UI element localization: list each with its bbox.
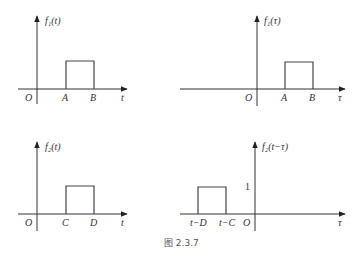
panel-f1-t: f₁(t) O A B t	[18, 15, 127, 104]
y-axis-label: f₁(τ)	[264, 15, 281, 27]
origin-label: O	[25, 217, 32, 228]
y-axis-label: f₂(t−τ)	[262, 141, 289, 153]
x-axis-label: τ	[338, 217, 342, 228]
pulse-start-label: A	[280, 92, 288, 103]
pulse	[66, 186, 94, 214]
pulse-end-label: t−C	[219, 217, 236, 228]
y-axis-label: f₂(t)	[45, 141, 61, 153]
pulse-start-label: C	[62, 217, 69, 228]
y-axis-label: f₁(t)	[45, 15, 61, 27]
pulse-start-label: A	[61, 92, 69, 103]
pulse-end-label: B	[90, 92, 96, 103]
pulse-end-label: B	[309, 92, 315, 103]
signal-figure: f₁(t) O A B t f₁(τ) O A B τ f₂(t) O C D …	[0, 0, 361, 257]
panel-f1-tau: f₁(τ) O A B τ	[180, 15, 345, 106]
panel-f2-t: f₂(t) O C D t	[18, 141, 127, 231]
height-label: 1	[245, 181, 250, 192]
x-axis-label: t	[121, 92, 124, 103]
panel-f2-t-minus-tau: f₂(t−τ) 1 O t−D t−C τ	[180, 141, 345, 231]
x-axis-label: τ	[338, 92, 342, 103]
pulse-start-label: t−D	[190, 217, 208, 228]
figure-caption: 图 2.3.7	[164, 238, 199, 248]
pulse-end-label: D	[89, 217, 98, 228]
pulse	[198, 187, 226, 214]
origin-label: O	[245, 92, 252, 103]
origin-label: O	[243, 217, 250, 228]
pulse	[66, 61, 94, 89]
pulse	[285, 62, 313, 89]
origin-label: O	[25, 92, 32, 103]
x-axis-label: t	[121, 217, 124, 228]
